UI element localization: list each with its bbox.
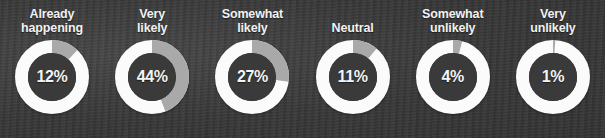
donut-chart-panel: Already happening 12% Very likely 44%: [0, 0, 605, 138]
donut-gauge: 11%: [315, 39, 391, 115]
donut-label: Very likely: [100, 7, 204, 35]
donut-ring-svg: [114, 39, 190, 115]
donut-hole: [228, 53, 276, 101]
donut-hole: [329, 53, 377, 101]
donut-label: Very unlikely: [501, 7, 605, 35]
donut-gauge: 1%: [515, 39, 591, 115]
donut-ring-svg: [214, 39, 290, 115]
donut-hole: [529, 53, 577, 101]
donut-gauge: 27%: [214, 39, 290, 115]
donut-row: Already happening 12% Very likely 44%: [0, 0, 605, 138]
donut-ring-svg: [315, 39, 391, 115]
donut-label: Somewhat unlikely: [401, 7, 505, 35]
donut-gauge: 12%: [14, 39, 90, 115]
donut-label: Somewhat likely: [200, 7, 304, 35]
donut-hole: [28, 53, 76, 101]
donut-item-somewhat-unlikely[interactable]: Somewhat unlikely 4%: [403, 0, 503, 138]
donut-item-very-unlikely[interactable]: Very unlikely 1%: [503, 0, 603, 138]
donut-label: Neutral: [301, 21, 405, 35]
donut-gauge: 44%: [114, 39, 190, 115]
donut-item-neutral[interactable]: Neutral 11%: [303, 0, 403, 138]
donut-hole: [429, 53, 477, 101]
donut-item-very-likely[interactable]: Very likely 44%: [102, 0, 202, 138]
donut-ring-svg: [415, 39, 491, 115]
donut-label: Already happening: [0, 7, 104, 35]
donut-item-somewhat-likely[interactable]: Somewhat likely 27%: [202, 0, 302, 138]
donut-ring-svg: [515, 39, 591, 115]
donut-hole: [128, 53, 176, 101]
donut-item-already-happening[interactable]: Already happening 12%: [2, 0, 102, 138]
donut-ring-svg: [14, 39, 90, 115]
donut-gauge: 4%: [415, 39, 491, 115]
